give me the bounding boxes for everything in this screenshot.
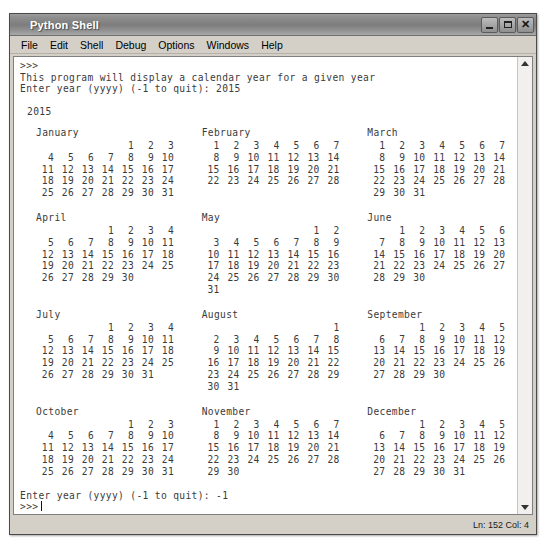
menu-item-debug[interactable]: Debug [109,36,152,54]
calendar-day-cell: 18 [445,249,465,261]
calendar-week-row: 14151617181920 [365,249,505,261]
calendar-week-row: 78910111213 [365,237,505,249]
calendar-week-row: 1234567 [200,419,340,431]
calendar-day-cell: 13 [300,430,320,442]
calendar-day-empty [425,187,445,199]
calendar-day-cell: 24 [240,454,260,466]
calendar-day-cell: 19 [465,249,485,261]
title-bar[interactable]: Python Shell ✕ [10,14,536,36]
menu-item-help[interactable]: Help [255,36,289,54]
menu-item-options[interactable]: Options [152,36,200,54]
calendar-day-empty [300,381,320,393]
calendar-day-cell: 3 [405,140,425,152]
calendar-day-cell: 7 [94,152,114,164]
menu-item-file[interactable]: File [15,36,44,54]
calendar-day-cell: 23 [425,357,445,369]
minimize-button[interactable] [481,17,498,33]
calendar-day-cell: 12 [485,334,505,346]
calendar-day-empty [280,284,300,296]
calendar-day-cell: 29 [114,187,134,199]
calendar-day-empty [385,419,405,431]
calendar-day-cell: 29 [365,187,385,199]
calendar-week-row: 262728293031 [34,369,174,381]
calendar-month-table: 1234567891011121314151617181920212223242… [200,322,340,393]
calendar-month-name: April [20,211,186,224]
calendar-day-cell: 25 [465,454,485,466]
calendar-week-row: 567891011 [34,334,174,346]
calendar-day-cell: 16 [200,357,220,369]
maximize-button[interactable] [499,17,516,33]
calendar-day-cell: 22 [200,454,220,466]
calendar-day-cell: 28 [280,272,300,284]
calendar-day-cell: 10 [134,237,154,249]
console-prompt-bottom-text: >>> [20,501,38,512]
calendar-day-cell: 20 [260,260,280,272]
menu-item-edit[interactable]: Edit [44,36,74,54]
calendar-day-cell: 6 [300,140,320,152]
calendar-day-cell: 24 [445,357,465,369]
menu-item-shell[interactable]: Shell [74,36,109,54]
calendar-day-cell: 1 [94,225,114,237]
calendar-day-empty [260,381,280,393]
calendar-day-cell: 4 [34,430,54,442]
calendar-week-row: 45678910 [34,430,174,442]
calendar-day-cell: 6 [54,237,74,249]
calendar-day-cell: 9 [220,152,240,164]
calendar-day-cell: 10 [200,249,220,261]
calendar-day-cell: 8 [365,152,385,164]
calendar-day-cell: 25 [260,175,280,187]
calendar-day-cell: 20 [280,357,300,369]
calendar-week-row: 18192021222324 [34,175,174,187]
calendar-day-cell: 27 [485,260,505,272]
calendar-day-cell: 4 [260,140,280,152]
scroll-down-button[interactable] [518,501,532,514]
close-button[interactable]: ✕ [517,17,534,33]
calendar-day-cell: 30 [405,272,425,284]
calendar-day-cell: 26 [34,272,54,284]
calendar-day-cell: 1 [385,225,405,237]
calendar-day-cell: 2 [220,419,240,431]
calendar-day-cell: 9 [220,430,240,442]
calendar-day-cell: 8 [385,237,405,249]
calendar-day-cell: 15 [405,345,425,357]
calendar-day-cell: 26 [54,466,74,478]
calendar-week-row: 20212223242526 [365,357,505,369]
calendar-day-cell: 14 [94,164,114,176]
calendar-day-cell: 2 [385,140,405,152]
calendar-day-cell: 9 [200,345,220,357]
calendar-day-cell: 26 [485,454,505,466]
calendar-day-cell: 14 [385,442,405,454]
calendar-day-cell: 15 [200,164,220,176]
shell-output-area[interactable]: >>> This program will display a calendar… [14,57,517,514]
calendar-day-cell: 19 [34,357,54,369]
minimize-icon [486,27,493,29]
calendar-day-cell: 25 [34,187,54,199]
calendar-day-cell: 21 [320,164,340,176]
vertical-scrollbar[interactable] [517,57,532,514]
scroll-up-button[interactable] [518,57,532,70]
calendar-day-cell: 28 [385,369,405,381]
calendar-month-october: October 12345678910111213141516171819202… [20,405,186,478]
calendar-day-cell: 12 [280,152,300,164]
calendar-week-row: 9101112131415 [200,345,340,357]
calendar-day-empty [74,140,94,152]
calendar-day-cell: 15 [94,249,114,261]
calendar-month-name: December [351,405,517,418]
calendar-day-cell: 21 [74,357,94,369]
calendar-day-cell: 14 [74,249,94,261]
calendar-week-row: 10111213141516 [200,249,340,261]
menu-item-windows[interactable]: Windows [201,36,256,54]
calendar-day-cell: 14 [320,152,340,164]
calendar-day-cell: 14 [74,345,94,357]
python-shell-window: Python Shell ✕ File Edit Shell Debug Opt… [9,13,537,535]
calendar-month-table: 1234567891011121314151617181920212223242… [200,140,340,187]
calendar-week-row: 293031 [365,187,505,199]
calendar-day-cell: 7 [320,140,340,152]
calendar-day-cell: 28 [300,369,320,381]
calendar-day-cell: 19 [485,442,505,454]
calendar-day-cell: 13 [300,152,320,164]
calendar-day-cell: 26 [240,272,260,284]
calendar-week-row: 11121314151617 [34,442,174,454]
calendar-week-row: 20212223242526 [365,454,505,466]
calendar-day-cell: 20 [300,164,320,176]
